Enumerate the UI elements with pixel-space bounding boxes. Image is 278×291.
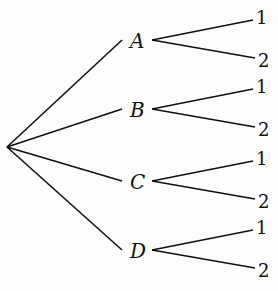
node-A: A xyxy=(130,31,144,51)
leaf-D-2: 2 xyxy=(258,262,269,280)
edge-root-A xyxy=(7,40,122,147)
node-D: D xyxy=(130,241,146,261)
node-C: C xyxy=(130,172,145,192)
leaf-B-1: 1 xyxy=(256,78,267,96)
edge-root-D xyxy=(7,147,122,250)
leaf-A-1: 1 xyxy=(256,9,267,27)
edge-A-1 xyxy=(152,20,253,40)
edge-B-1 xyxy=(152,89,253,109)
leaf-D-1: 1 xyxy=(256,219,267,237)
leaf-A-2: 2 xyxy=(258,52,269,70)
leaf-C-1: 1 xyxy=(256,150,267,168)
tree-diagram: A12B12C12D12 xyxy=(0,0,278,291)
edge-C-2 xyxy=(152,181,255,199)
edge-A-2 xyxy=(152,40,255,58)
node-B: B xyxy=(130,100,145,120)
leaf-B-2: 2 xyxy=(258,121,269,139)
edge-C-1 xyxy=(152,161,253,181)
edge-root-B xyxy=(7,109,122,147)
leaf-C-2: 2 xyxy=(258,193,269,211)
edge-D-2 xyxy=(152,250,255,268)
edge-D-1 xyxy=(152,230,253,250)
edge-B-2 xyxy=(152,109,255,127)
edge-root-C xyxy=(7,147,122,181)
